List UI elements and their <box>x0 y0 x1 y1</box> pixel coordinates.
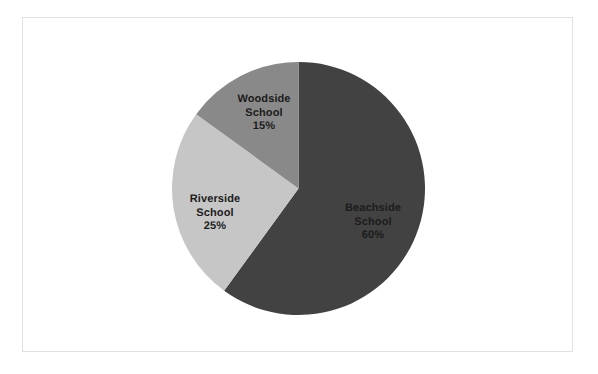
pie-label-beachside-name-line1: Beachside <box>345 202 401 216</box>
pie-svg <box>171 61 426 316</box>
pie-label-beachside: Beachside School 60% <box>345 202 401 243</box>
pie-label-woodside-name-line1: Woodside <box>237 93 290 107</box>
pie-label-riverside-name-line2: School <box>190 206 240 220</box>
pie-label-riverside-name-line1: Riverside <box>190 193 240 207</box>
pie-label-riverside: Riverside School 25% <box>190 193 240 234</box>
pie-label-beachside-name-line2: School <box>345 215 401 229</box>
pie-label-riverside-value: 25% <box>190 220 240 234</box>
pie-label-woodside: Woodside School 15% <box>237 93 290 134</box>
pie-label-beachside-value: 60% <box>345 229 401 243</box>
pie-chart: Beachside School 60% Riverside School 25… <box>0 0 598 374</box>
pie-label-woodside-name-line2: School <box>237 106 290 120</box>
pie-label-woodside-value: 15% <box>237 120 290 134</box>
